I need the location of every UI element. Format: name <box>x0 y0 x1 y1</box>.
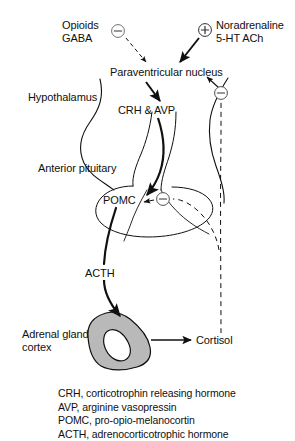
label-hypothalamus: Hypothalamus <box>28 91 97 104</box>
label-adrenal-gland: Adrenal gland <box>22 328 89 341</box>
pomc-to-acth-line <box>104 208 116 264</box>
cortisol-feedback-to-pvn-arrow <box>207 77 219 88</box>
label-serotonin-ach: 5-HT ACh <box>216 32 284 45</box>
label-cortisol: Cortisol <box>196 334 233 347</box>
legend-item-pomc: POMC, pro-opio-melanocortin <box>58 414 236 428</box>
label-pomc: POMC <box>103 194 136 207</box>
opioids-gaba-to-pvn-arrow <box>126 38 146 62</box>
acth-to-adrenal-arrow <box>104 280 120 316</box>
label-paraventricular-nucleus: Paraventricular nucleus <box>110 66 223 79</box>
hpa-axis-diagram: Opioids GABA Noradrenaline 5-HT ACh Para… <box>0 0 295 441</box>
label-noradrenaline-group: Noradrenaline 5-HT ACh <box>216 19 284 45</box>
label-adrenal-gland-cortex: Adrenal gland cortex <box>22 328 89 354</box>
cortisol-feedback-to-pomc-arrow <box>144 200 154 202</box>
legend-item-acth: ACTH, adrenocorticotrophic hormone <box>58 428 236 441</box>
label-crh-avp: CRH & AVP <box>118 104 175 117</box>
pituitary-stalk-left-edge <box>133 112 152 186</box>
label-gaba: GABA <box>62 32 99 45</box>
noradrenaline-to-pvn-arrow <box>180 38 199 62</box>
label-noradrenaline: Noradrenaline <box>216 19 284 32</box>
label-acth: ACTH <box>85 267 115 280</box>
label-opioids-gaba: Opioids GABA <box>62 19 99 45</box>
legend-item-crh: CRH, corticotrophin releasing hormone <box>58 387 236 401</box>
abbreviation-legend: CRH, corticotrophin releasing hormone AV… <box>58 387 236 441</box>
legend-item-avp: AVP, arginine vasopressin <box>58 401 236 415</box>
pvn-to-crh-avp-arrow <box>146 82 160 101</box>
label-anterior-pituitary: Anterior pituitary <box>38 162 116 175</box>
label-opioids: Opioids <box>62 19 99 32</box>
cortisol-feedback-to-pomc-line <box>173 199 219 250</box>
label-cortex: cortex <box>22 341 89 354</box>
